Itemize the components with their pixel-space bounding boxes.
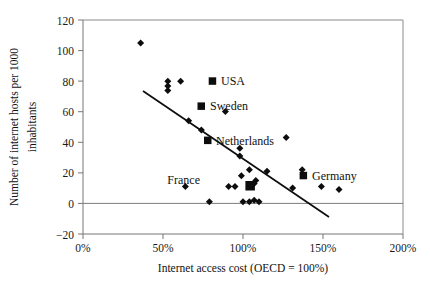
data-point-diamond bbox=[318, 183, 325, 190]
data-point-square-usa bbox=[209, 77, 217, 85]
y-tick-label-40: 40 bbox=[63, 137, 75, 149]
data-point-diamond bbox=[206, 198, 213, 205]
x-axis-tick-labels: 0% 50% 100% 150% 200% bbox=[75, 242, 417, 254]
data-point-square-sweden bbox=[198, 102, 206, 110]
scatter-chart: 120 100 80 60 40 20 0 −20 0% 50% 100% 15… bbox=[0, 0, 430, 290]
y-tick-label-60: 60 bbox=[63, 106, 75, 118]
data-point-square-netherlands bbox=[204, 137, 212, 145]
data-point-diamond bbox=[177, 78, 184, 85]
y-tick-label-0: 0 bbox=[68, 198, 74, 210]
data-point-diamond bbox=[225, 183, 232, 190]
y-tick-label-100: 100 bbox=[57, 45, 75, 57]
x-tick-label-150: 150% bbox=[310, 242, 337, 254]
data-point-diamond bbox=[336, 186, 343, 193]
y-tick-label-20: 20 bbox=[63, 167, 75, 179]
data-point-diamond bbox=[238, 172, 245, 179]
data-point-square-germany bbox=[300, 172, 308, 180]
data-point-diamond bbox=[232, 183, 239, 190]
point-labels: USA Sweden Netherlands Germany France bbox=[167, 74, 356, 187]
x-tick-label-0: 0% bbox=[75, 242, 91, 254]
point-label-netherlands: Netherlands bbox=[216, 134, 274, 148]
x-tick-label-200: 200% bbox=[390, 242, 417, 254]
y-tick-label-80: 80 bbox=[63, 76, 75, 88]
point-label-germany: Germany bbox=[312, 169, 357, 183]
y-axis-title-line2: inhabitants bbox=[26, 101, 38, 152]
x-tick-label-100: 100% bbox=[230, 242, 257, 254]
point-label-france: France bbox=[167, 173, 200, 187]
y-tick-label-120: 120 bbox=[57, 15, 75, 27]
point-label-usa: USA bbox=[221, 74, 245, 88]
data-point-diamond bbox=[246, 166, 253, 173]
y-axis-ticks bbox=[78, 20, 83, 234]
chart-canvas: 120 100 80 60 40 20 0 −20 0% 50% 100% 15… bbox=[0, 0, 430, 290]
x-tick-label-50: 50% bbox=[152, 242, 174, 254]
x-axis-title: Internet access cost (OECD = 100%) bbox=[158, 262, 328, 275]
point-label-sweden: Sweden bbox=[210, 99, 248, 113]
data-point-diamond bbox=[137, 40, 144, 47]
y-axis-tick-labels: 120 100 80 60 40 20 0 −20 bbox=[56, 15, 74, 241]
data-point-diamond bbox=[240, 198, 247, 205]
data-point-diamond bbox=[283, 134, 290, 141]
x-axis-ticks bbox=[83, 234, 403, 239]
data-point-square-france bbox=[245, 181, 255, 191]
y-tick-label-minus20: −20 bbox=[56, 229, 74, 241]
y-axis-title-line1: Number of internet hosts per 1000 bbox=[8, 48, 21, 206]
data-point-diamond bbox=[164, 87, 171, 94]
